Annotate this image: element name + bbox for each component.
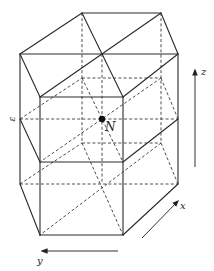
edge-b1-f2: [82, 13, 123, 97]
edge-b2-f1: [40, 13, 161, 97]
edge-f1-l: [20, 54, 40, 97]
hidden-edge-bb2-br: [161, 143, 178, 184]
hidden-edges: [20, 13, 178, 235]
edge-ml-mf1: [20, 119, 40, 162]
epsilon-label: ε: [7, 116, 17, 121]
edge-bl-bf1: [20, 184, 40, 235]
edge-mf2-mr: [123, 119, 178, 162]
hidden-edge-bb2-bf1: [40, 143, 161, 235]
hidden-edge-mb2-mr: [161, 78, 178, 119]
edge-l-b1: [20, 13, 82, 54]
hidden-edge-bl-bb1: [20, 143, 82, 184]
center-atom: N: [99, 116, 116, 134]
edge-r-f2: [123, 54, 178, 97]
z-axis-label: z: [200, 66, 207, 77]
x-axis-label: x: [180, 200, 186, 211]
hexagonal-prism-diagram: N ε zxy: [0, 0, 214, 271]
hidden-edge-bb1-bf2: [82, 143, 123, 235]
coordinate-axes: zxy: [36, 66, 207, 266]
atom-n-label: N: [104, 120, 116, 134]
x-axis-arrow: [142, 201, 178, 238]
y-axis-label: y: [36, 255, 43, 266]
edge-b2-r: [161, 13, 178, 54]
hidden-edge-ml-mb1: [20, 78, 82, 119]
visible-edges: [20, 13, 178, 235]
